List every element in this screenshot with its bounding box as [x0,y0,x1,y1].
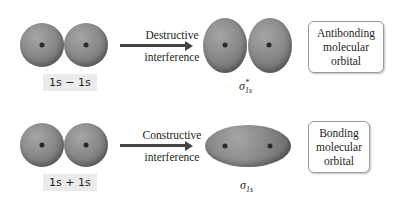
description-line: orbital [316,154,362,168]
orbital-subscript: 1s [245,86,252,95]
nucleus-dot [40,43,45,48]
description-line: Bonding [316,126,362,140]
combination-label: 1s + 1s [43,174,97,191]
atomic-orbital-1s-right [64,123,108,167]
description-line: orbital [317,54,375,68]
description-line: Antibonding [317,26,375,40]
nucleus-dot [268,144,273,149]
nucleus-dot [267,43,272,48]
nucleus-dot [223,43,228,48]
description-line: molecular [316,140,362,154]
orbital-symbol: σ1s [240,178,253,194]
combination-label: 1s − 1s [43,74,97,91]
antibonding-lobe-left [203,18,247,73]
atomic-orbital-1s-left [20,23,64,67]
orbital-subscript: 1s [246,185,253,194]
bonding-description-box: Bonding molecular orbital [308,121,370,173]
nucleus-dot [223,144,228,149]
antibonding-lobe-right [248,18,292,73]
right-arrow-icon [120,44,186,47]
antibonding-description-box: Antibonding molecular orbital [308,21,384,73]
atomic-orbital-1s-right [64,23,108,67]
right-arrow-icon [120,144,186,147]
bonding-orbital-ellipse [205,125,291,167]
description-line: molecular [317,40,375,54]
atomic-orbital-1s-left [20,123,64,167]
nucleus-dot [40,143,45,148]
nucleus-dot [84,143,89,148]
nucleus-dot [84,43,89,48]
orbital-symbol: σ*1s [239,78,252,95]
